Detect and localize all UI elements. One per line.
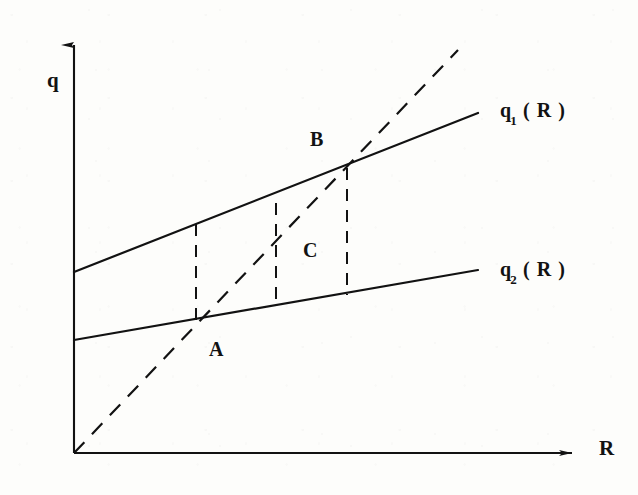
region-label-c: C: [303, 240, 317, 260]
curve-label-q2: q2( R ): [500, 259, 566, 283]
curve-q2: [74, 270, 478, 340]
y-axis-label: q: [47, 70, 59, 91]
point-label-b: B: [310, 129, 323, 149]
point-label-a: A: [209, 339, 223, 359]
curve-label-q1-argument: ( R ): [523, 99, 566, 121]
line-diagram: [0, 0, 638, 495]
diagonal-ray: [74, 50, 458, 453]
curve-label-q2-argument: ( R ): [523, 258, 566, 280]
curve-label-q1-subscript: 1: [510, 113, 517, 128]
curve-label-q1: q1( R ): [500, 100, 566, 124]
curve-label-q2-subscript: 2: [510, 272, 517, 287]
x-axis-label: R: [599, 438, 614, 459]
figure-canvas: q R A B C q1( R ) q2( R ): [0, 0, 638, 495]
